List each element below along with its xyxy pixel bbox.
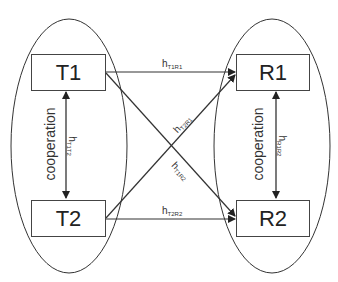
node-r2: R2	[236, 200, 310, 237]
label-h-r1r2: hR1R2	[276, 136, 288, 157]
node-r1-label: R1	[259, 60, 287, 86]
receiver-cooperation-label: cooperation	[250, 104, 266, 184]
node-t2-label: T2	[56, 206, 82, 232]
link-t1-r2	[106, 73, 235, 216]
node-t1-label: T1	[56, 60, 82, 86]
label-h-t1t2: hT1T2	[66, 136, 78, 156]
node-r2-label: R2	[259, 206, 287, 232]
transmitter-cooperation-label: cooperation	[42, 104, 58, 184]
label-h-t2r2: hT2R2	[162, 205, 182, 217]
label-h-t1r1: hT1R1	[162, 58, 182, 70]
node-t1: T1	[31, 54, 106, 91]
node-t2: T2	[31, 200, 106, 237]
node-r1: R1	[236, 54, 310, 91]
cooperative-mimo-diagram: T1 T2 R1 R2 cooperation cooperation hT1R…	[0, 0, 338, 282]
link-t2-r1	[106, 75, 235, 218]
